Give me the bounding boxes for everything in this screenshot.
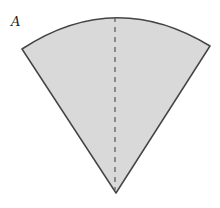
sector-figure xyxy=(0,0,220,208)
sector-shape xyxy=(22,18,210,193)
